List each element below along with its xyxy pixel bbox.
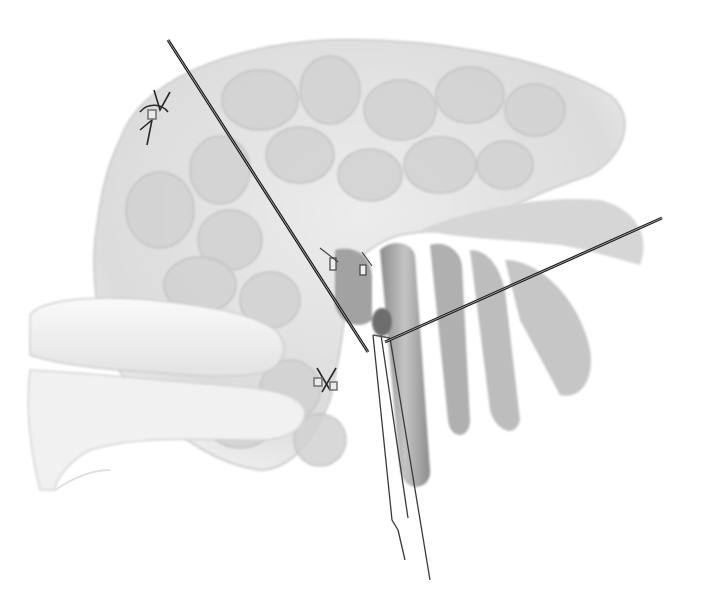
illustration <box>0 0 705 613</box>
surgical-illustration <box>0 0 705 613</box>
vessels <box>335 243 591 487</box>
